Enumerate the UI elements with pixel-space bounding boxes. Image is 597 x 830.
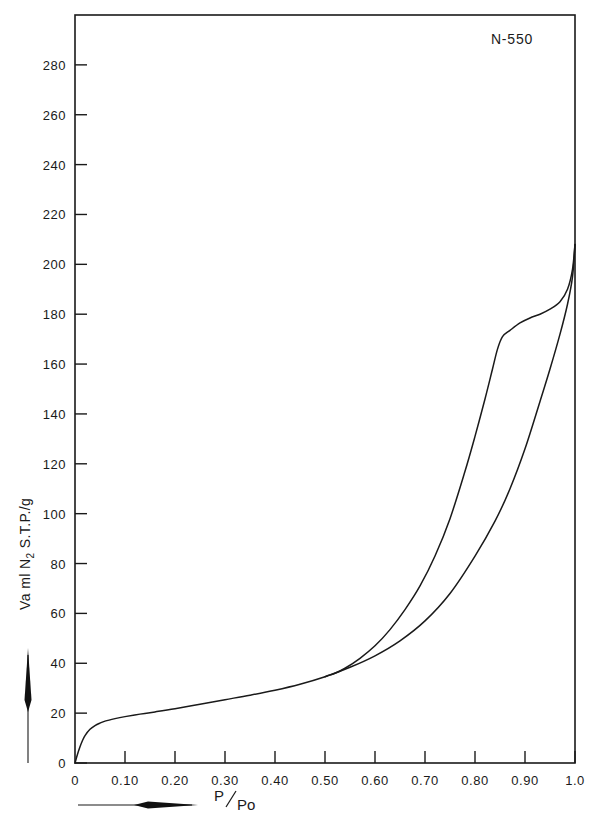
y-tick-label-60: 60 — [51, 606, 66, 621]
y-axis-title-post: S.T.P./g — [17, 498, 33, 553]
x-tick-label-1.0: 1.0 — [565, 773, 585, 788]
y-tick-label-280: 280 — [43, 58, 66, 73]
isotherm-figure: 020406080100120140160180200220240260280 … — [0, 0, 597, 830]
y-tick-label-140: 140 — [43, 407, 66, 422]
x-tick-label-0.40: 0.40 — [261, 773, 288, 788]
y-axis-title: Va ml N2 S.T.P./g — [17, 498, 36, 610]
y-tick-label-220: 220 — [43, 207, 66, 222]
x-tick-label-0.70: 0.70 — [411, 773, 438, 788]
y-tick-label-120: 120 — [43, 457, 66, 472]
y-axis-direction-arrow — [25, 648, 32, 763]
y-tick-label-0: 0 — [58, 756, 66, 771]
y-axis-ticks — [75, 65, 87, 763]
x-axis-title: P Po — [214, 787, 255, 813]
svg-text:Va ml N2 S.T.P./g: Va ml N2 S.T.P./g — [17, 498, 36, 610]
adsorption-branch-curve — [75, 244, 575, 763]
y-axis-tick-labels: 020406080100120140160180200220240260280 — [43, 58, 66, 771]
y-axis-title-pre: Va ml N — [17, 558, 33, 610]
y-tick-label-260: 260 — [43, 108, 66, 123]
y-tick-label-100: 100 — [43, 507, 66, 522]
x-axis-direction-arrow — [78, 802, 198, 809]
x-tick-label-0.30: 0.30 — [211, 773, 238, 788]
y-tick-label-200: 200 — [43, 257, 66, 272]
series-label: N-550 — [491, 31, 533, 47]
x-tick-label-0.60: 0.60 — [361, 773, 388, 788]
x-tick-label-0.10: 0.10 — [111, 773, 138, 788]
plot-frame — [75, 15, 575, 763]
x-tick-label-0.50: 0.50 — [311, 773, 338, 788]
y-tick-label-180: 180 — [43, 307, 66, 322]
x-axis-ticks — [125, 751, 575, 763]
x-tick-label-0: 0 — [71, 773, 79, 788]
y-tick-label-240: 240 — [43, 158, 66, 173]
x-tick-label-0.20: 0.20 — [161, 773, 188, 788]
chart-svg: 020406080100120140160180200220240260280 … — [0, 0, 597, 830]
x-axis-tick-labels: 00.100.200.300.400.500.600.700.800.901.0 — [71, 773, 585, 788]
x-axis-title-numerator: P — [214, 787, 224, 804]
desorption-branch-curve — [325, 244, 575, 676]
y-tick-label-20: 20 — [51, 706, 66, 721]
x-axis-title-denominator: Po — [237, 796, 255, 813]
y-tick-label-160: 160 — [43, 357, 66, 372]
x-tick-label-0.90: 0.90 — [511, 773, 538, 788]
x-tick-label-0.80: 0.80 — [461, 773, 488, 788]
y-tick-label-80: 80 — [51, 557, 66, 572]
y-tick-label-40: 40 — [51, 656, 66, 671]
